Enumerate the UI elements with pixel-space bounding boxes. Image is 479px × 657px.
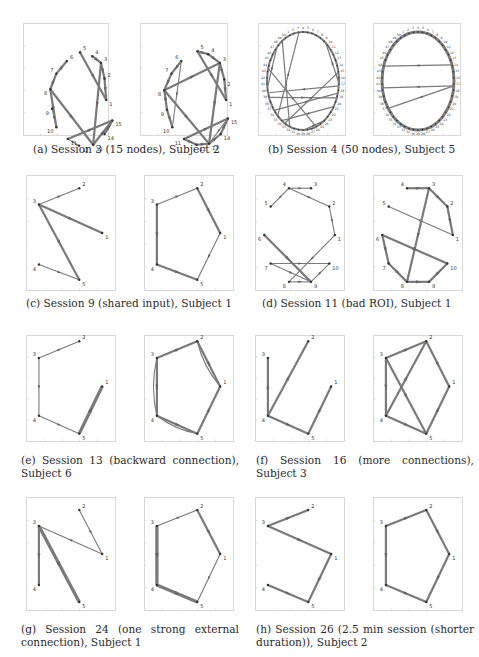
node-label: 38 [265,102,269,106]
node-label: 1 [223,234,226,240]
node-label: 4 [151,586,154,592]
node-label: 3 [33,198,36,204]
node-label: 20 [337,102,341,106]
node-label: 3 [380,351,383,357]
node-label: 7 [382,265,385,271]
node-label: 12 [335,51,339,55]
node-label: 3 [314,181,317,187]
node [396,41,398,43]
node [180,60,182,62]
node-label: 42 [376,76,380,80]
node-label: 5 [429,603,432,609]
node-label: 15 [455,69,459,73]
node-label: 3 [33,351,36,357]
node-label: 30 [411,132,415,136]
node [323,41,325,43]
node-label: 5 [200,603,203,609]
node [387,205,389,207]
node-label: 9 [314,283,317,289]
node [196,279,198,281]
node [336,95,338,97]
node-label: 39 [263,95,267,99]
node [223,78,225,80]
node-label: 16 [456,76,460,80]
node [451,95,453,97]
node [38,203,40,205]
node-label: 4 [380,586,383,592]
node [307,340,309,342]
node-label: 23 [328,118,332,122]
node [78,340,80,342]
node [381,234,383,236]
node [219,385,221,387]
node [453,83,455,85]
node-label: 15 [115,121,121,127]
node [385,59,387,61]
node-label: 1 [109,101,112,107]
node-label: 7 [317,30,319,34]
node-label: 8 [283,283,286,289]
node-label: 29 [301,132,305,136]
node-label: 41 [376,82,380,86]
node-label: 48 [389,40,393,44]
graph-panel-f-right: 12345 [373,335,463,442]
edge-arrow-icon [208,576,211,580]
node-label: 22 [332,113,336,117]
node [413,32,415,34]
node [438,41,440,43]
node [328,262,330,264]
graph-panel-g-left: 12345 [26,497,116,611]
node-label: 4 [401,181,404,187]
node [330,385,332,387]
node-label: 5 [200,281,203,287]
node [428,281,430,283]
node [385,101,387,103]
node [307,432,309,434]
network-graph: 12345 [27,498,115,610]
node-label: 2 [108,72,111,78]
node [156,357,158,359]
caption-h: (h) Session 26 (2.5 min session (shorter… [256,623,474,649]
network-graph: 12345678910 [256,176,344,290]
node [101,385,103,387]
graph-panel-h-right: 12345 [373,497,463,611]
node-label: 46 [382,51,386,55]
node-label: 40 [262,89,266,93]
node-label: 9 [440,36,442,40]
node-label: 1 [338,236,341,242]
node-label: 5 [83,45,86,51]
node [425,340,427,342]
node [170,72,172,74]
node-label: 26 [316,128,320,132]
node-label: 5 [429,435,432,441]
node [422,129,424,131]
node [78,509,80,511]
node-label: 15 [340,69,344,73]
node-label: 1 [402,30,404,34]
node-label: 23 [443,118,447,122]
node-label: 50 [397,33,401,37]
node [183,138,185,140]
network-graph: 12345 [27,176,115,290]
node [315,35,317,37]
node-label: 8 [436,33,438,37]
node [196,50,198,52]
node [38,357,40,359]
node-label: 28 [306,132,310,136]
node-label: 7 [50,67,53,73]
network-graph: 12345 [27,336,115,441]
node-label: 2 [200,181,203,187]
node [267,525,269,527]
node-label: 1 [105,234,108,240]
node [196,187,198,189]
node [385,415,387,417]
node [268,95,270,97]
node [38,263,40,265]
node-label: 5 [307,26,309,30]
graph-panel-g-right: 12345 [144,497,234,611]
node [269,205,271,207]
node-label: 25 [435,125,439,129]
ring-of-nodes [382,32,454,130]
node [382,71,384,73]
node-label: 12 [450,51,454,55]
